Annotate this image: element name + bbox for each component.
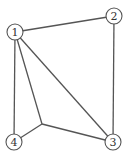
node-3: 3 (105, 134, 121, 150)
graph-diagram: 1 2 3 4 (0, 0, 129, 157)
node-4-label: 4 (11, 136, 18, 149)
node-3-label: 3 (110, 136, 117, 149)
edge-1-2 (15, 16, 114, 32)
node-1-label: 1 (12, 26, 19, 39)
node-4: 4 (6, 134, 22, 150)
edge-1-junction (15, 32, 42, 124)
edges (14, 16, 114, 142)
edge-2-3 (113, 16, 114, 142)
edge-1-3 (15, 32, 113, 142)
edge-1-4 (14, 32, 15, 142)
node-1: 1 (7, 24, 23, 40)
node-2-label: 2 (111, 10, 118, 23)
edge-junction-3 (42, 124, 113, 142)
node-2: 2 (106, 8, 122, 24)
